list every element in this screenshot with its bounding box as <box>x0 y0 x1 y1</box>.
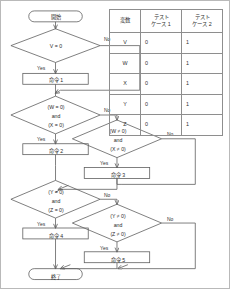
cell-variable: V <box>110 33 141 54</box>
table-row: Y01 <box>110 94 223 115</box>
cell-case-2: 1 <box>182 94 223 115</box>
decision-3-label-line3: (X ≠ 0) <box>110 146 126 153</box>
process-5-label: 命令 5 <box>111 257 125 264</box>
process-3-label: 命令 3 <box>111 172 125 179</box>
table-row: W01 <box>110 53 223 74</box>
edge-p3-to-merge3 <box>117 178 122 184</box>
decision-2-label-line2: and <box>52 113 61 120</box>
edge-d3-no-route <box>122 139 195 185</box>
header-case-1-line2: ケース 1 <box>141 21 181 28</box>
table-row: X01 <box>110 74 223 95</box>
cell-case-1: 0 <box>141 94 182 115</box>
edge-bottom-merge-arrow <box>60 265 70 269</box>
table-row: Z01 <box>110 115 223 136</box>
header-case-2-line1: テスト <box>182 14 222 21</box>
edge-label-d3-yes: Yes <box>100 160 108 166</box>
table-header-row: 変数 テスト ケース 1 テスト ケース 2 <box>110 10 223 33</box>
cell-case-2: 1 <box>182 33 223 54</box>
header-case-2: テスト ケース 2 <box>182 10 223 33</box>
process-1-label: 命令 1 <box>49 77 63 84</box>
edge-p5-to-bottom <box>62 263 117 269</box>
cell-variable: Y <box>110 94 141 115</box>
decision-3-label-line2: and <box>114 137 123 144</box>
edge-bottom-merge-arrow2 <box>118 265 128 269</box>
decision-5-label-line1: (Y ≠ 0) <box>110 213 125 220</box>
cell-variable: Z <box>110 115 141 136</box>
edge-label-d5-no: No <box>167 216 173 222</box>
decision-4-label-line1: (Y = 0) <box>48 189 64 196</box>
cell-case-1: 0 <box>141 33 182 54</box>
edge-d4-no-to-d5 <box>100 199 117 204</box>
decision-4-label-line2: and <box>52 198 61 205</box>
header-case-2-line2: ケース 2 <box>182 21 222 28</box>
diagram-frame: 開始 V = 0 命令 1 (W = 0) and (X = 0) 命令 2 (… <box>0 0 230 289</box>
edge-label-d4-no: No <box>104 192 110 198</box>
header-variable: 変数 <box>110 10 141 33</box>
table-body: V01W01X01Y01Z01 <box>110 33 223 136</box>
edge-label-d2-yes: Yes <box>37 136 45 142</box>
edge-d5-no-route <box>122 223 195 269</box>
cell-case-1: 0 <box>141 74 182 95</box>
table-row: V01 <box>110 33 223 54</box>
decision-5-label-line3: (Z ≠ 0) <box>110 231 125 238</box>
decision-4-label-line3: (Z = 0) <box>48 207 63 214</box>
decision-5-label-line2: and <box>114 222 123 229</box>
start-terminal-label: 開始 <box>51 14 61 21</box>
decision-2-label-line3: (X = 0) <box>48 122 64 129</box>
header-case-1: テスト ケース 1 <box>141 10 182 33</box>
decision-2-label-line1: (W = 0) <box>47 104 64 111</box>
cell-case-2: 1 <box>182 74 223 95</box>
edge-label-d4-yes: Yes <box>37 221 45 227</box>
cell-variable: W <box>110 53 141 74</box>
process-2-label: 命令 2 <box>49 148 63 155</box>
cell-case-2: 1 <box>182 53 223 74</box>
edge-label-d5-yes: Yes <box>100 245 108 251</box>
cell-case-2: 1 <box>182 115 223 136</box>
cell-variable: X <box>110 74 141 95</box>
process-4-label: 命令 4 <box>49 233 63 240</box>
edge-label-d1-yes: Yes <box>37 65 45 71</box>
test-case-table: 変数 テスト ケース 1 テスト ケース 2 V01W01X01Y01Z01 <box>109 9 223 136</box>
end-terminal-label: 終了 <box>51 274 61 281</box>
cell-case-1: 0 <box>141 115 182 136</box>
decision-1-label: V = 0 <box>50 43 62 50</box>
cell-case-1: 0 <box>141 53 182 74</box>
header-case-1-line1: テスト <box>141 14 181 21</box>
